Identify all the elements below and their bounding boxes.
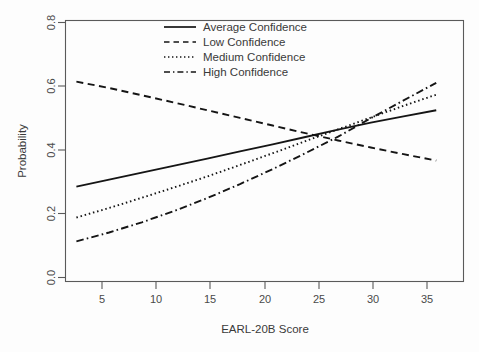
chart-legend: Average Confidence Low Confidence Medium… [164, 21, 307, 78]
y-axis-ticks [58, 23, 66, 278]
x-tick-label: 30 [367, 293, 379, 305]
probability-line-chart: 0.8 0.6 0.4 0.2 0.0 5 10 15 20 25 30 35 … [0, 0, 479, 352]
legend-label: Low Confidence [203, 36, 285, 48]
x-tick-label: 20 [259, 293, 271, 305]
chart-container: 0.8 0.6 0.4 0.2 0.0 5 10 15 20 25 30 35 … [0, 0, 479, 352]
y-tick-label: 0.6 [45, 78, 57, 93]
y-tick-label: 0.8 [45, 15, 57, 30]
x-axis-tick-labels: 5 10 15 20 25 30 35 [99, 293, 433, 305]
y-tick-label: 0.0 [45, 270, 57, 285]
legend-entry-high-confidence: High Confidence [164, 66, 288, 78]
x-axis-ticks [102, 282, 427, 290]
legend-label: Average Confidence [203, 21, 307, 33]
legend-entry-average-confidence: Average Confidence [164, 21, 307, 33]
series-line-medium-confidence [76, 95, 436, 218]
legend-entry-medium-confidence: Medium Confidence [164, 51, 305, 63]
x-tick-label: 35 [421, 293, 433, 305]
x-tick-label: 25 [313, 293, 325, 305]
x-tick-label: 15 [204, 293, 216, 305]
y-axis-tick-labels: 0.8 0.6 0.4 0.2 0.0 [45, 15, 57, 285]
x-tick-label: 10 [150, 293, 162, 305]
legend-entry-low-confidence: Low Confidence [164, 36, 285, 48]
y-tick-label: 0.4 [45, 142, 57, 157]
x-tick-label: 5 [99, 293, 105, 305]
y-axis-title: Probability [16, 124, 28, 178]
series-line-high-confidence [76, 83, 436, 242]
data-series-layer [76, 82, 436, 242]
legend-label: High Confidence [203, 66, 288, 78]
legend-label: Medium Confidence [203, 51, 305, 63]
y-tick-label: 0.2 [45, 206, 57, 221]
x-axis-title: EARL-20B Score [221, 323, 309, 335]
